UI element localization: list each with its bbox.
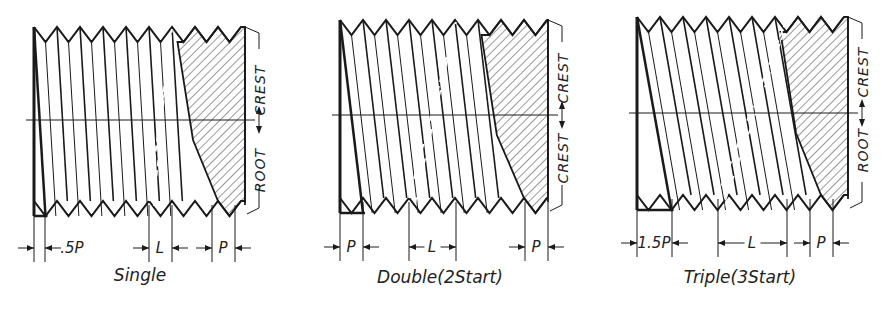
caption-double: Double(2Start) bbox=[377, 267, 503, 287]
arrow-icon bbox=[518, 244, 525, 250]
helix-line bbox=[683, 17, 714, 195]
arrow-icon bbox=[833, 240, 840, 246]
arrow-icon bbox=[142, 245, 149, 251]
caption-single: Single bbox=[114, 265, 166, 285]
helix-line bbox=[161, 42, 171, 216]
panel-double bbox=[324, 20, 565, 261]
helix-line bbox=[398, 35, 419, 213]
helix-line bbox=[741, 32, 772, 210]
helix-line bbox=[57, 27, 67, 201]
helix-entry-line bbox=[340, 20, 363, 213]
dim-label-triple-lead: L bbox=[748, 234, 756, 252]
panel-triple bbox=[621, 17, 865, 257]
helix-line bbox=[386, 20, 407, 198]
section-hatch bbox=[177, 27, 245, 216]
helix-line bbox=[80, 27, 90, 201]
caption-triple: Triple(3Start) bbox=[684, 267, 796, 287]
dim-label-triple-1-5-pitch: 1.5P bbox=[638, 234, 672, 252]
arrow-icon bbox=[409, 244, 416, 250]
dim-label-single-pitch: P bbox=[218, 239, 228, 257]
dim-label-single-lead: L bbox=[156, 239, 164, 257]
arrow-icon bbox=[333, 244, 340, 250]
arrow-icon bbox=[363, 244, 370, 250]
helix-line bbox=[115, 42, 125, 216]
helix-line bbox=[126, 27, 136, 201]
helix-line bbox=[409, 20, 430, 198]
arrow-icon bbox=[672, 240, 679, 246]
side-label-single-lower: ROOT bbox=[252, 147, 268, 192]
helix-line bbox=[138, 42, 148, 216]
side-label-triple-upper: CREST bbox=[855, 46, 871, 97]
arrow-icon bbox=[256, 126, 262, 134]
hidden-helix-line bbox=[413, 35, 453, 213]
dim-label-triple-pitch: P bbox=[816, 234, 826, 252]
arrow-icon bbox=[803, 240, 810, 246]
thread-diagram: Single Double(2Start) Triple(3Start) CRE… bbox=[0, 0, 890, 310]
helix-line bbox=[69, 42, 79, 216]
section-hatch bbox=[481, 20, 548, 213]
helix-line bbox=[649, 32, 680, 210]
arrow-icon bbox=[27, 245, 34, 251]
helix-line bbox=[352, 35, 373, 213]
helix-line bbox=[729, 17, 760, 195]
leader-lower bbox=[550, 205, 562, 211]
helix-line bbox=[455, 20, 476, 198]
arrow-icon bbox=[859, 119, 865, 127]
arrow-icon bbox=[45, 245, 52, 251]
helix-line bbox=[363, 20, 384, 198]
panel-single bbox=[18, 27, 262, 262]
helix-line bbox=[149, 27, 159, 201]
arrow-icon bbox=[548, 244, 555, 250]
leader-upper bbox=[245, 27, 259, 33]
arrow-icon bbox=[449, 244, 456, 250]
helix-line bbox=[672, 32, 703, 210]
side-label-single-upper: CREST bbox=[252, 64, 268, 115]
leader-lower bbox=[850, 202, 862, 208]
arrow-icon bbox=[780, 240, 787, 246]
helix-entry-line bbox=[34, 27, 46, 216]
helix-line bbox=[706, 17, 737, 195]
leader-upper bbox=[848, 17, 862, 23]
helix-line bbox=[46, 42, 56, 216]
arrow-icon bbox=[205, 245, 212, 251]
dim-label-double-pitch-left: P bbox=[346, 238, 356, 256]
hidden-helix-line bbox=[722, 32, 784, 210]
thread-crest-bottom bbox=[34, 201, 241, 216]
side-label-double-lower: CREST bbox=[555, 132, 571, 183]
helix-line bbox=[103, 27, 113, 201]
arrow-icon bbox=[559, 121, 565, 129]
helix-line bbox=[92, 42, 102, 216]
helix-line bbox=[695, 32, 726, 210]
arrow-icon bbox=[718, 240, 725, 246]
helix-line bbox=[375, 35, 396, 213]
side-label-double-upper: CREST bbox=[555, 52, 571, 103]
side-label-triple-lower: ROOT bbox=[855, 127, 871, 172]
dim-label-double-pitch-right: P bbox=[531, 238, 541, 256]
dim-label-double-lead: L bbox=[428, 238, 436, 256]
helix-line bbox=[467, 35, 488, 213]
leader-lower bbox=[247, 208, 259, 214]
helix-line bbox=[421, 35, 442, 213]
arrow-icon bbox=[172, 245, 179, 251]
arrow-icon bbox=[235, 245, 242, 251]
leader-upper bbox=[548, 20, 562, 26]
dim-label-single-half-pitch: .5P bbox=[60, 239, 84, 257]
helix-line bbox=[752, 17, 783, 195]
arrow-icon bbox=[859, 99, 865, 107]
arrow-icon bbox=[630, 240, 637, 246]
